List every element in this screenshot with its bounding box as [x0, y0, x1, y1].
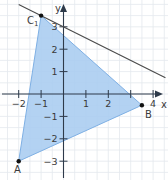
point-b-label: B — [145, 109, 152, 120]
point-c-letter: C — [27, 15, 34, 26]
point-a-dot — [17, 159, 21, 163]
x-tick-label: 4 — [150, 98, 156, 109]
point-c1-dot — [39, 13, 43, 17]
coordinate-diagram: −2−1124 321−1−2−3 x y A B C1 — [0, 0, 168, 180]
point-c1-label: C1 — [27, 15, 38, 28]
x-axis-arrow-icon — [155, 91, 163, 98]
y-axis-arrow-icon — [60, 4, 67, 12]
y-axis-label: y — [55, 3, 61, 14]
point-c-subscript: 1 — [34, 20, 38, 28]
x-tick-label: −2 — [12, 98, 26, 109]
y-tick-label: 1 — [51, 66, 57, 77]
x-tick-label: 2 — [105, 98, 111, 109]
x-tick-label: −1 — [34, 98, 48, 109]
y-tick-label: −2 — [43, 133, 57, 144]
x-axis-label: x — [161, 99, 167, 110]
triangle-abc1 — [19, 16, 142, 162]
y-tick-label: −1 — [43, 111, 57, 122]
y-tick-label: −3 — [43, 156, 57, 167]
coordinate-plane: −2−1124 321−1−2−3 x y A B C1 — [0, 0, 168, 180]
y-tick-label: 2 — [51, 44, 57, 55]
point-a-label: A — [14, 164, 21, 175]
point-b-dot — [140, 103, 144, 107]
x-tick-label: 1 — [83, 98, 89, 109]
